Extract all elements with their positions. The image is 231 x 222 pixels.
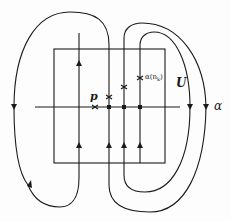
diagram-canvas: p α(nk) U α bbox=[0, 0, 231, 222]
arrow-up-line-2 bbox=[106, 142, 112, 148]
arrow-up-line-1-top bbox=[76, 60, 82, 66]
arrow-up-line-3 bbox=[121, 142, 127, 148]
arrow-down-inner-right bbox=[187, 104, 193, 110]
arrow-up-line-1 bbox=[76, 142, 82, 148]
label-p: p bbox=[90, 91, 98, 102]
marked-points bbox=[92, 76, 143, 109]
flow-diagram bbox=[0, 0, 231, 222]
label-alpha-nk-close: ) bbox=[160, 73, 163, 81]
label-U: U bbox=[176, 77, 186, 89]
right-inner-bottom bbox=[124, 107, 190, 192]
intersection-1 bbox=[107, 105, 111, 109]
arrow-up-line-4 bbox=[137, 142, 143, 148]
intersection-3 bbox=[138, 105, 142, 109]
arrow-down-outer-right bbox=[203, 104, 209, 110]
label-alpha-nk: α(nk) bbox=[145, 74, 163, 82]
label-alpha-nk-main: α(n bbox=[145, 73, 157, 81]
label-alpha: α bbox=[214, 100, 222, 112]
intersection-2 bbox=[122, 105, 126, 109]
arrow-down-left-loop bbox=[11, 104, 17, 110]
